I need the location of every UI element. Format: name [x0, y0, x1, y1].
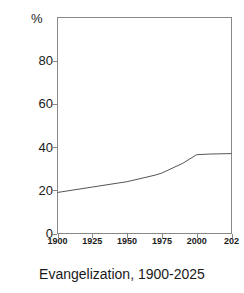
- chart-figure: % 020406080 Evangelization, 1900-2025 19…: [0, 0, 244, 293]
- x-tick-label: 1900: [47, 237, 67, 246]
- data-series-layer: [0, 0, 244, 293]
- x-tick-label: 1925: [82, 237, 102, 246]
- x-tick-label: 202: [224, 237, 239, 246]
- x-tick-mark: [92, 234, 93, 238]
- x-tick-label: 2000: [187, 237, 207, 246]
- x-tick-mark: [232, 234, 233, 238]
- x-tick-mark: [127, 234, 128, 238]
- x-tick-label: 1950: [117, 237, 137, 246]
- evangelization-line: [58, 154, 232, 193]
- x-tick-label: 1975: [152, 237, 172, 246]
- x-tick-mark: [58, 234, 59, 238]
- x-tick-mark: [162, 234, 163, 238]
- chart-caption: Evangelization, 1900-2025: [0, 266, 244, 282]
- x-tick-mark: [197, 234, 198, 238]
